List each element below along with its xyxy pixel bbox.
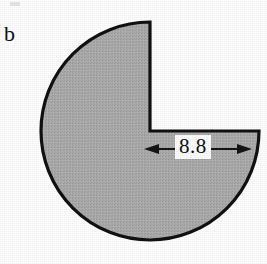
dimension-label: 8.8 — [175, 135, 211, 159]
panel-label: b — [4, 23, 15, 45]
geometry-diagram-svg — [0, 0, 267, 264]
three-quarter-disc-shape — [41, 22, 259, 240]
figure-panel: b 8.8 — [0, 0, 267, 264]
